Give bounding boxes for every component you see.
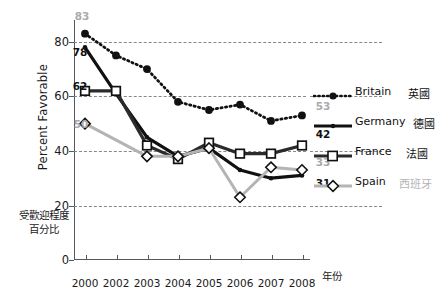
data-point-britain bbox=[112, 52, 120, 60]
x-tick-label-2007: 2007 bbox=[258, 277, 285, 289]
y-tick-label-40: 40 bbox=[54, 144, 69, 158]
plot-area: 80 60 40 20 0 2000 2002 2003 2004 2005 2… bbox=[74, 20, 310, 260]
legend-label-britain-cn: 英國 bbox=[408, 85, 430, 101]
x-tick-label-2005: 2005 bbox=[196, 277, 223, 289]
data-point-spain bbox=[142, 151, 152, 161]
chart-legend: Britain 英國 Germany 德國 France 法國 Spa bbox=[313, 82, 436, 202]
chart-page: Percent Favorable 受歡迎程度 百分比 年份 80 60 40 … bbox=[0, 0, 436, 297]
solid-line-dot-icon bbox=[313, 119, 353, 133]
data-point-britain bbox=[205, 106, 213, 114]
x-tick-label-2002: 2002 bbox=[103, 277, 130, 289]
data-point-britain bbox=[236, 101, 244, 109]
legend-item-britain[interactable]: Britain 英國 bbox=[313, 82, 436, 112]
data-point-britain bbox=[267, 117, 275, 125]
data-point-germany bbox=[269, 176, 274, 181]
y-axis-title: Percent Favorable bbox=[36, 64, 50, 170]
legend-label-spain-cn: 西班牙 bbox=[399, 175, 432, 191]
data-point-france bbox=[298, 141, 307, 150]
gray-line-open-diamond-icon bbox=[313, 179, 353, 193]
dotted-line-filled-circle-icon bbox=[313, 89, 353, 103]
y-tick-0 bbox=[69, 260, 74, 261]
y-axis-caption-cn-line1: 受歡迎程度 bbox=[8, 208, 80, 222]
data-point-france bbox=[143, 141, 152, 150]
data-point-france bbox=[267, 149, 276, 158]
legend-item-spain[interactable]: Spain 西班牙 bbox=[313, 172, 436, 202]
solid-line-open-square-icon bbox=[313, 149, 353, 163]
legend-label-germany-cn: 德國 bbox=[413, 115, 435, 131]
legend-label-france-cn: 法國 bbox=[406, 145, 428, 161]
data-point-france bbox=[236, 149, 245, 158]
y-tick-label-20: 20 bbox=[54, 199, 69, 213]
legend-label-france: France bbox=[355, 145, 392, 158]
data-point-britain bbox=[174, 98, 182, 106]
value-label-france-start: 62 bbox=[73, 80, 88, 92]
data-point-spain bbox=[297, 165, 307, 175]
x-tick-label-2008: 2008 bbox=[289, 277, 316, 289]
legend-item-germany[interactable]: Germany 德國 bbox=[313, 112, 436, 142]
value-label-britain-start: 83 bbox=[75, 10, 90, 22]
series-line-spain bbox=[85, 124, 302, 198]
y-tick-label-60: 60 bbox=[54, 89, 69, 103]
legend-label-germany: Germany bbox=[355, 115, 406, 128]
value-label-spain-start: 50 bbox=[74, 118, 89, 130]
y-tick-label-80: 80 bbox=[54, 35, 69, 49]
legend-item-france[interactable]: France 法國 bbox=[313, 142, 436, 172]
data-point-britain bbox=[298, 112, 306, 120]
data-point-britain bbox=[143, 65, 151, 73]
data-point-france bbox=[112, 87, 121, 96]
gridline-20-ext bbox=[310, 206, 382, 207]
y-tick-label-0: 0 bbox=[62, 253, 69, 267]
data-point-britain bbox=[81, 30, 89, 38]
x-axis-title: 年份 bbox=[322, 268, 342, 283]
legend-label-spain: Spain bbox=[355, 175, 386, 188]
series-line-britain bbox=[85, 34, 302, 121]
gridline-80-ext bbox=[310, 42, 382, 43]
x-tick-label-2000: 2000 bbox=[72, 277, 99, 289]
y-axis-caption-cn: 受歡迎程度 百分比 bbox=[8, 208, 80, 236]
legend-label-britain: Britain bbox=[355, 85, 391, 98]
chart-svg bbox=[74, 20, 310, 260]
data-point-germany bbox=[238, 168, 243, 173]
x-tick-label-2006: 2006 bbox=[227, 277, 254, 289]
x-tick-label-2004: 2004 bbox=[165, 277, 192, 289]
value-label-germany-start: 78 bbox=[73, 46, 88, 58]
x-tick-label-2003: 2003 bbox=[134, 277, 161, 289]
y-axis-caption-cn-line2: 百分比 bbox=[8, 222, 80, 236]
data-point-germany bbox=[145, 135, 150, 140]
